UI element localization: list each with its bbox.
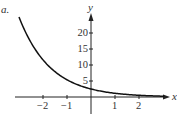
axes [15,13,170,114]
x-tick-label: 2 [136,101,141,112]
y-tick-label: 10 [78,60,89,71]
x-axis-label: x [172,91,177,102]
chart-plot [0,0,177,121]
y-axis-arrow-icon [89,13,94,21]
x-tick-label: −2 [37,101,48,112]
y-axis-label: y [88,2,93,13]
curve-line [19,17,164,96]
x-axis-arrow-icon [163,95,170,100]
y-tick-label: 20 [78,28,89,39]
x-tick-label: 1 [112,101,117,112]
y-tick-label: 15 [78,44,89,55]
x-tick-label: −1 [61,101,72,112]
y-tick-label: 5 [83,76,88,87]
